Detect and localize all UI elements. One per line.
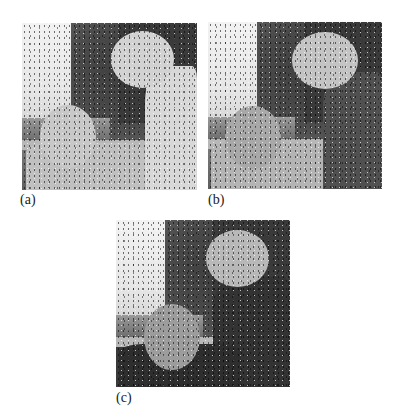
image-panel-c xyxy=(116,220,290,387)
noise-overlay xyxy=(116,220,290,387)
noise-overlay xyxy=(22,23,197,190)
image-panel-a xyxy=(22,23,197,190)
panel-label-c: (c) xyxy=(116,391,132,405)
panel-label-a: (a) xyxy=(20,193,36,207)
noise-overlay xyxy=(208,22,382,189)
image-panel-b xyxy=(208,22,382,189)
panel-label-b: (b) xyxy=(208,193,224,207)
